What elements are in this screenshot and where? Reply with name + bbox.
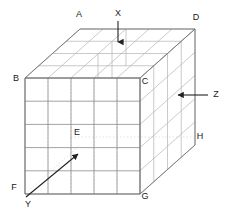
- vertex-label-d: D: [193, 12, 200, 22]
- axis-label-z: Z: [213, 89, 219, 99]
- vertex-label-c: C: [142, 76, 149, 86]
- vertex-label-f: F: [11, 182, 17, 192]
- axis-labels-group: X Z Y: [25, 8, 219, 209]
- diagram-root: A D B C E H F G X Z Y: [0, 0, 228, 212]
- vertex-label-g: G: [141, 191, 148, 201]
- vertex-label-h: H: [197, 131, 204, 141]
- front-face-group: [25, 78, 140, 194]
- axis-label-y: Y: [25, 199, 31, 209]
- vertex-labels-group: A D B C E H F G: [11, 9, 203, 201]
- vertex-label-b: B: [13, 73, 19, 83]
- axis-label-x: X: [115, 8, 121, 18]
- hidden-line-f-receding: [25, 145, 80, 194]
- vertex-label-e: E: [74, 127, 80, 137]
- top-face-group: [25, 29, 195, 78]
- cube-diagram-canvas: A D B C E H F G X Z Y: [0, 0, 228, 212]
- vertex-label-a: A: [76, 9, 82, 19]
- y-axis-arrow: [26, 154, 78, 197]
